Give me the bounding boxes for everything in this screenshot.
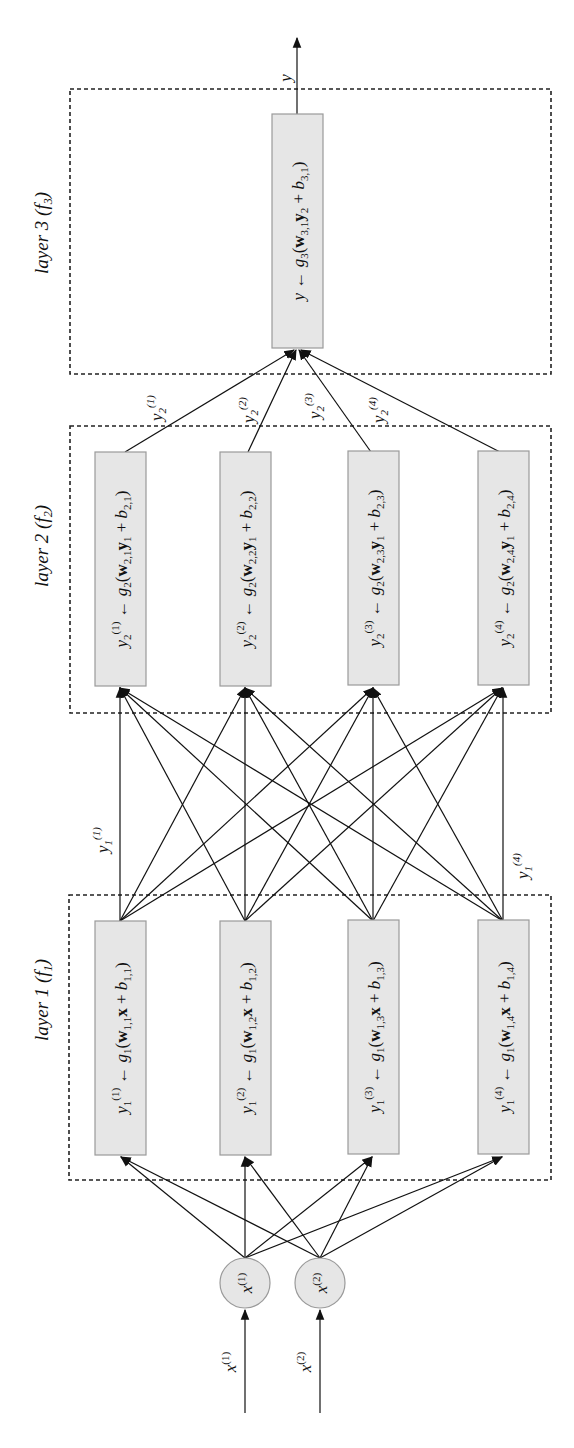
layer2-unit-1: y2(1) ← g2(w2,1y1 + b2,1) bbox=[95, 452, 146, 686]
layer2-unit-2: y2(2) ← g2(w2,2y1 + b2,2) bbox=[220, 452, 271, 686]
input-node-2: x(2) bbox=[295, 1258, 345, 1308]
signal-y2-4: y2(4) bbox=[366, 397, 390, 425]
layer-2-label: layer 2 (f2) bbox=[31, 505, 55, 587]
layer3-unit-1: y ← g3(w3,1y2 + b3,1) bbox=[272, 114, 323, 348]
layer1-unit-3: y1(3) ← g1(w1,3x + b1,3) bbox=[348, 920, 399, 1154]
neural-network-diagram: x(1) x(2) x(1) x(2) y1(1) ← g1(w1,1x + b… bbox=[0, 0, 574, 1448]
layer-1-units: y1(1) ← g1(w1,1x + b1,1) y1(2) ← g1(w1,2… bbox=[95, 920, 529, 1155]
input-node-1: x(1) bbox=[220, 1258, 270, 1308]
layer1-unit-2: y1(2) ← g1(w1,2x + b1,2) bbox=[220, 921, 271, 1155]
signal-y2-1: y2(1) bbox=[144, 395, 168, 423]
input-label-2: x(2) bbox=[294, 1351, 315, 1373]
output-label-y: y bbox=[276, 74, 295, 84]
signal-y1-4: y1(4) bbox=[510, 853, 534, 881]
layer1-unit-1: y1(1) ← g1(w1,1x + b1,1) bbox=[95, 921, 146, 1155]
layer-1-label: layer 1 (f1) bbox=[31, 959, 55, 1041]
layer-2-units: y2(1) ← g2(w2,1y1 + b2,1) y2(2) ← g2(w2,… bbox=[95, 451, 529, 686]
input-label-1: x(1) bbox=[219, 1351, 240, 1373]
layer-3-label: layer 3 (f3) bbox=[31, 192, 55, 274]
signal-y2-2: y2(2) bbox=[236, 397, 260, 425]
layer2-unit-4: y2(4) ← g2(w2,4y1 + b2,4) bbox=[478, 451, 529, 685]
signal-y1-1: y1(1) bbox=[90, 827, 114, 855]
edges-input-to-layer1 bbox=[121, 1157, 502, 1258]
edges-layer1-to-layer2 bbox=[120, 688, 503, 921]
layer2-unit-3: y2(3) ← g2(w2,3y1 + b2,3) bbox=[348, 451, 399, 685]
signal-y2-3: y2(3) bbox=[302, 393, 326, 421]
layer1-unit-4: y1(4) ← g1(w1,4x + b1,4) bbox=[478, 920, 529, 1154]
